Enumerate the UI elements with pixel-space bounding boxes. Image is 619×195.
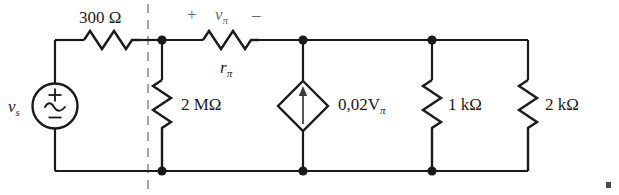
label-1-kilohm: 1 kΩ: [448, 96, 482, 113]
label-r-pi-subscript: π: [227, 67, 233, 79]
label-v-s-subscript: s: [16, 106, 20, 118]
circuit-diagram: 300 Ω + vπ – rπ 2 MΩ vs 0,02Vπ 1 kΩ 2 kΩ: [0, 0, 619, 195]
2-kilohm-resistor: [519, 80, 537, 171]
r-pi-resistor: [203, 31, 259, 49]
label-vpi-plus: +: [187, 6, 197, 23]
label-v-pi-base: v: [215, 5, 223, 24]
2-megohm-resistor: [153, 80, 171, 171]
label-300-ohm: 300 Ω: [79, 9, 121, 26]
node-dot-top-c: [427, 35, 436, 44]
label-dependent-source-base: 0,02V: [338, 95, 380, 114]
1-kilohm-resistor: [423, 80, 441, 171]
label-v-s-base: v: [8, 97, 16, 116]
node-dot-top-a: [157, 35, 166, 44]
label-dependent-source-subscript: π: [380, 104, 386, 116]
current-arrow-head-icon: [299, 86, 307, 96]
label-v-pi-subscript: π: [223, 14, 229, 26]
label-dependent-source: 0,02Vπ: [338, 96, 386, 116]
label-2-kilohm: 2 kΩ: [545, 96, 579, 113]
label-2-megohm: 2 MΩ: [181, 96, 222, 113]
label-r-pi: rπ: [220, 59, 232, 79]
sine-wave-icon: [45, 103, 65, 111]
label-v-pi: vπ: [215, 6, 228, 26]
node-dot-bottom-c: [427, 166, 436, 175]
300-ohm-resistor: [84, 31, 140, 49]
label-vpi-minus: –: [252, 6, 261, 23]
node-dot-bottom-a: [157, 166, 166, 175]
scan-artifact-speck: [606, 182, 611, 188]
node-dot-top-b: [298, 35, 307, 44]
label-v-s: vs: [8, 98, 20, 118]
node-dot-bottom-b: [298, 166, 307, 175]
circuit-schematic-canvas: [0, 0, 619, 195]
label-r-pi-base: r: [220, 58, 227, 77]
